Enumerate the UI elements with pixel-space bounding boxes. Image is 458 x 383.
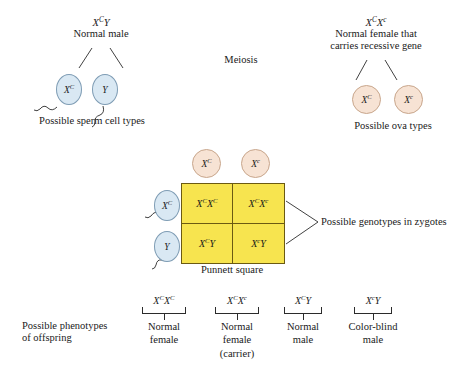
phenotype-column: XCXc Normal female (carrier) [203, 295, 271, 360]
punnett-caption: Punnett square [177, 264, 287, 276]
father-meiosis-line-left [79, 48, 92, 68]
sperm-tail-1 [34, 106, 57, 111]
punnett-cell: XcY [233, 224, 284, 264]
phenotype-line3: (carrier) [203, 348, 271, 360]
phenotype-line1: Normal [272, 321, 334, 333]
phenotypes-heading-line1: Possible phenotypes [22, 320, 107, 331]
punnett-row-gamete-2: Y [154, 231, 180, 262]
mother-meiosis-line-right [385, 60, 397, 80]
punnett-cell: XCXc [233, 184, 284, 224]
phenotype-column: XCY Normal male [272, 295, 334, 348]
punnett-cell: XCY [182, 224, 233, 264]
phenotype-bracket-stem [164, 314, 165, 320]
phenotype-line1: Color-blind [337, 321, 409, 333]
phenotype-line2: male [272, 334, 334, 346]
mother-gametes-label: Possible ova types [328, 120, 458, 132]
father-meiosis-line-right [110, 48, 123, 68]
phenotype-line2: male [337, 334, 409, 346]
phenotype-line2: female [203, 334, 271, 346]
zygotes-bracket [286, 201, 318, 244]
father-gamete-2: Y [92, 74, 118, 105]
punnett-row-gamete-1: XC [154, 190, 180, 221]
phenotype-bracket-stem [303, 314, 304, 320]
mother-gamete-1: XC [352, 85, 381, 114]
punnett-column-gamete-2: Xc [241, 149, 270, 178]
punnett-column-gamete-1: XC [192, 149, 221, 178]
phenotype-bracket-stem [373, 314, 374, 320]
phenotypes-heading-line2: of offspring [22, 332, 72, 343]
phenotype-bracket [354, 307, 392, 314]
mother-meiosis-line-left [356, 60, 367, 80]
mother-description-line2: carries recessive gene [306, 40, 446, 52]
phenotype-bracket-stem [237, 314, 238, 320]
mother-gamete-2: Xc [394, 85, 423, 114]
phenotype-line1: Normal [203, 321, 271, 333]
zygotes-label: Possible genotypes in zygotes [321, 216, 447, 227]
phenotype-bracket [142, 307, 186, 314]
phenotype-line1: Normal [130, 321, 198, 333]
phenotype-bracket [284, 307, 322, 314]
father-description: Normal male [51, 28, 151, 40]
phenotype-bracket [215, 307, 259, 314]
father-gametes-label: Possible sperm cell types [7, 115, 177, 127]
mother-description-line1: Normal female that [306, 28, 446, 40]
punnett-cell: XCXC [182, 184, 233, 224]
phenotype-line2: female [130, 334, 198, 346]
phenotype-column: XCXC Normal female [130, 295, 198, 348]
phenotype-column: XcY Color-blind male [337, 295, 409, 348]
meiosis-label: Meiosis [196, 54, 286, 66]
father-gamete-1: XC [56, 74, 82, 105]
punnett-square: XCXC XCXc XCY XcY [181, 183, 285, 264]
